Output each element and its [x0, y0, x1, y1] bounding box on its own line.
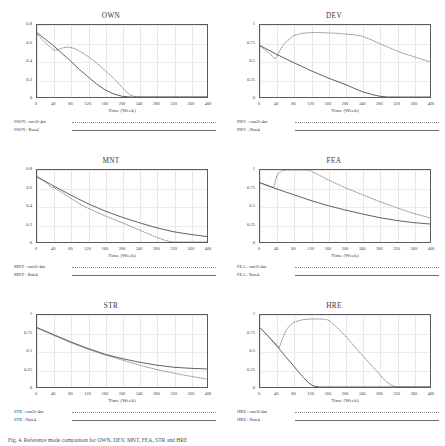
x-tick-label: 200 — [115, 101, 129, 106]
plot-area — [36, 314, 208, 388]
x-tick-label: 280 — [149, 391, 163, 396]
y-tick-label: 0 — [2, 385, 32, 390]
legend-swatch-solid — [295, 420, 439, 422]
y-tick-label: 1 — [225, 311, 255, 316]
x-tick-label: 240 — [132, 101, 146, 106]
y-tick-label: 1 — [225, 166, 255, 171]
x-tick-label: 0 — [29, 246, 43, 251]
x-tick-label: 280 — [149, 101, 163, 106]
x-tick-label: 400 — [424, 246, 438, 251]
x-axis-title: Time (Week) — [259, 253, 431, 258]
x-tick-label: 360 — [407, 246, 421, 251]
x-tick-label: 40 — [46, 101, 60, 106]
legend-row: HRE : run3f-4m — [237, 408, 443, 416]
chart-legend: STR : run3f-4mSTR : Run4 — [14, 408, 220, 424]
legend-swatch-solid — [72, 130, 216, 132]
series-solid — [37, 177, 207, 237]
x-tick-label: 240 — [132, 391, 146, 396]
y-tick-label: 0.75 — [2, 330, 32, 335]
x-tick-label: 160 — [321, 101, 335, 106]
chart-panel-mnt: MNT00.20.40.60.8040801201602002402803203… — [0, 147, 222, 292]
chart-title: OWN — [0, 12, 222, 21]
legend-swatch-dotted — [72, 412, 216, 414]
y-tick-label: 0.4 — [2, 58, 32, 63]
y-tick-label: 1 — [2, 311, 32, 316]
y-tick-label: 0.75 — [225, 330, 255, 335]
plot-area — [259, 314, 431, 388]
plot-area — [36, 24, 208, 98]
x-tick-label: 400 — [424, 391, 438, 396]
legend-label: FEA : Run4 — [237, 271, 259, 278]
x-tick-label: 200 — [338, 391, 352, 396]
chart-title: STR — [0, 302, 222, 311]
legend-row: MNT : run3f-4m — [14, 263, 220, 271]
x-tick-label: 360 — [184, 101, 198, 106]
y-tick-label: 0.6 — [2, 185, 32, 190]
x-tick-label: 40 — [269, 101, 283, 106]
y-tick-label: 0.25 — [225, 77, 255, 82]
chart-title: MNT — [0, 157, 222, 166]
x-tick-label: 80 — [286, 101, 300, 106]
x-tick-label: 320 — [167, 246, 181, 251]
x-tick-label: 320 — [390, 101, 404, 106]
legend-row: STR : run3f-4m — [14, 408, 220, 416]
x-tick-label: 80 — [286, 391, 300, 396]
x-tick-label: 40 — [46, 391, 60, 396]
y-tick-label: 0.25 — [225, 222, 255, 227]
legend-label: MNT : Run4 — [14, 271, 38, 278]
series-solid — [37, 328, 207, 369]
x-tick-label: 360 — [184, 246, 198, 251]
x-tick-label: 240 — [355, 246, 369, 251]
y-tick-label: 0.25 — [2, 367, 32, 372]
y-tick-label: 0.8 — [2, 21, 32, 26]
legend-label: OWN : run3f-4m — [14, 118, 46, 125]
plot-area — [259, 169, 431, 243]
legend-row: DEV : Run4 — [237, 126, 443, 134]
legend-label: HRE : run3f-4m — [237, 408, 267, 415]
chart-panel-dev: DEV00.250.50.751040801201602002402803203… — [223, 2, 445, 147]
y-tick-label: 1 — [225, 21, 255, 26]
plot-area — [259, 24, 431, 98]
x-axis-title: Time (Week) — [36, 398, 208, 403]
legend-row: STR : Run4 — [14, 416, 220, 424]
series-dotted — [37, 34, 207, 97]
x-tick-label: 280 — [149, 246, 163, 251]
curve-layer — [37, 170, 207, 242]
legend-row: MNT : Run4 — [14, 271, 220, 279]
x-axis-title: Time (Week) — [259, 398, 431, 403]
legend-row: FEA : Run4 — [237, 271, 443, 279]
figure-caption: Fig. 4. Reference mode comparison for OW… — [8, 436, 438, 444]
y-tick-label: 0.75 — [225, 40, 255, 45]
chart-legend: MNT : run3f-4mMNT : Run4 — [14, 263, 220, 279]
legend-row: FEA : run3f-4m — [237, 263, 443, 271]
y-tick-label: 0 — [225, 240, 255, 245]
y-tick-label: 0.4 — [2, 203, 32, 208]
y-tick-label: 0.8 — [2, 166, 32, 171]
x-tick-label: 280 — [372, 246, 386, 251]
x-tick-label: 280 — [372, 391, 386, 396]
legend-row: DEV : run3f-4m — [237, 118, 443, 126]
x-tick-label: 40 — [269, 246, 283, 251]
x-tick-label: 120 — [81, 391, 95, 396]
curve-layer — [37, 315, 207, 387]
series-solid — [260, 46, 430, 97]
chart-panel-hre: HRE00.250.50.751040801201602002402803203… — [223, 292, 445, 437]
x-tick-label: 160 — [98, 101, 112, 106]
x-tick-label: 240 — [355, 391, 369, 396]
x-tick-label: 160 — [321, 391, 335, 396]
x-tick-label: 400 — [201, 246, 215, 251]
legend-swatch-solid — [295, 275, 439, 277]
x-tick-label: 120 — [304, 246, 318, 251]
legend-label: FEA : run3f-4m — [237, 263, 266, 270]
curve-layer — [260, 25, 430, 97]
legend-row: HRE : Run4 — [237, 416, 443, 424]
x-tick-label: 400 — [201, 391, 215, 396]
y-tick-label: 0 — [2, 240, 32, 245]
chart-legend: HRE : run3f-4mHRE : Run4 — [237, 408, 443, 424]
y-tick-label: 0.5 — [2, 348, 32, 353]
x-tick-label: 200 — [115, 246, 129, 251]
series-solid — [260, 328, 430, 387]
x-tick-label: 320 — [167, 101, 181, 106]
legend-label: STR : Run4 — [14, 416, 36, 423]
figure-sheet: OWN00.20.40.60.8040801201602002402803203… — [0, 0, 445, 446]
